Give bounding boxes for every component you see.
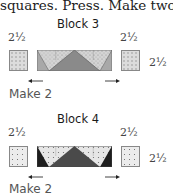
block-4-side-dimension: 2½ bbox=[149, 152, 167, 165]
block-3-title: Block 3 bbox=[57, 17, 99, 31]
press-right-arrow-icon bbox=[105, 174, 120, 180]
block-4-title: Block 4 bbox=[57, 112, 99, 126]
block-3-flying-geese-unit bbox=[37, 50, 112, 71]
block-4-diagram: Block 4 2½ 2½ 2½ Make 2 bbox=[0, 96, 173, 195]
block-3-diagram: Block 3 2½ 2½ 2½ Make 2 bbox=[0, 0, 173, 100]
block-4-make-label: Make 2 bbox=[9, 182, 52, 195]
block-4-right-dimension: 2½ bbox=[120, 126, 138, 139]
block-3-left-dimension: 2½ bbox=[8, 31, 26, 44]
block-4-flying-geese-unit bbox=[37, 146, 112, 167]
press-right-arrow-icon bbox=[105, 78, 120, 84]
block-3-left-square bbox=[9, 50, 28, 71]
block-4-left-square bbox=[9, 146, 28, 167]
block-3-right-dimension: 2½ bbox=[120, 31, 138, 44]
press-left-arrow-icon bbox=[28, 174, 43, 180]
block-4-left-dimension: 2½ bbox=[8, 126, 26, 139]
block-3-side-dimension: 2½ bbox=[149, 56, 167, 69]
press-left-arrow-icon bbox=[28, 78, 43, 84]
block-4-right-square bbox=[121, 146, 140, 167]
block-3-right-square bbox=[121, 50, 140, 71]
